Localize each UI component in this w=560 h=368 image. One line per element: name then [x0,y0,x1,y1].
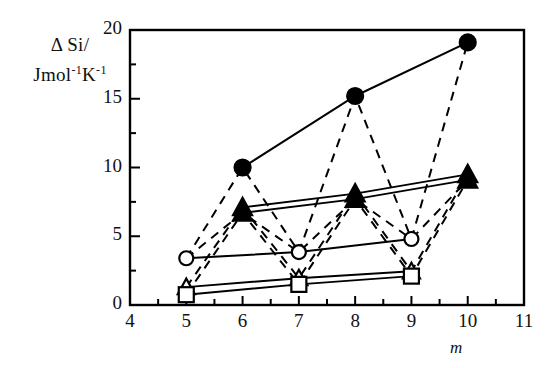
x-tick-label: 8 [335,310,375,332]
y-tick-label: 15 [82,86,122,108]
data-point-square-open [291,277,306,292]
data-point-square-open [404,269,419,284]
y-tick-label: 20 [82,17,122,39]
data-point-square-open [179,287,194,302]
chart-figure: Δ Si/ Jmol-1K-1 m 456789101105101520 [0,0,560,368]
x-tick-label: 10 [448,310,488,332]
data-point-circle-open [292,245,306,259]
data-point-circle-filled [347,88,363,104]
x-tick-label: 6 [223,310,263,332]
y-axis-ticks [130,64,140,270]
series-filled-circle-series [235,34,476,175]
data-point-circle-filled [235,160,251,176]
y-tick-label: 5 [82,223,122,245]
data-point-circle-open [404,232,418,246]
y-tick-label: 0 [82,292,122,314]
x-tick-label: 9 [391,310,431,332]
x-tick-label: 11 [504,310,544,332]
y-tick-label: 10 [82,155,122,177]
series-filled-triangle-series-lower [233,170,477,220]
x-tick-label: 7 [279,310,319,332]
data-series-layer [178,34,477,302]
data-point-circle-open [179,251,193,265]
x-tick-label: 5 [166,310,206,332]
data-point-circle-filled [460,34,476,50]
